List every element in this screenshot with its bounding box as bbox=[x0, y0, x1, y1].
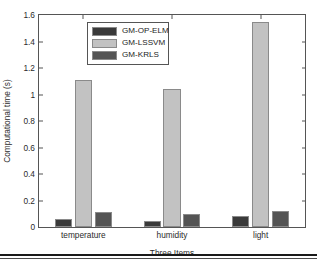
y-tick-mark bbox=[39, 200, 43, 201]
legend-label: GM-OP-ELM bbox=[122, 27, 169, 35]
bar bbox=[144, 221, 161, 227]
x-axis-title: Three Items bbox=[150, 248, 194, 258]
plot-area: 00.20.40.60.811.21.41.6 temperaturehumid… bbox=[38, 14, 306, 228]
page-rule-thin bbox=[0, 258, 317, 259]
y-tick-mark bbox=[302, 94, 306, 95]
y-tick-mark bbox=[302, 174, 306, 175]
y-tick-mark bbox=[39, 121, 43, 122]
legend-swatch bbox=[92, 39, 117, 48]
y-tick-mark bbox=[39, 174, 43, 175]
bar bbox=[55, 219, 72, 227]
y-tick-label: 0 bbox=[30, 223, 35, 231]
bar bbox=[183, 214, 200, 227]
page-rule-thick bbox=[0, 254, 317, 256]
legend: GM-OP-ELMGM-LSSVMGM-KRLS bbox=[87, 22, 169, 65]
bar bbox=[272, 211, 289, 227]
y-tick-label: 0.8 bbox=[23, 117, 35, 125]
legend-label: GM-KRLS bbox=[122, 51, 159, 59]
x-tick-label: humidity bbox=[157, 231, 188, 239]
bar bbox=[95, 212, 112, 227]
y-tick-mark bbox=[39, 147, 43, 148]
y-tick-label: 0.4 bbox=[23, 170, 35, 178]
y-tick-mark bbox=[302, 200, 306, 201]
y-tick-mark bbox=[302, 121, 306, 122]
y-tick-mark bbox=[302, 68, 306, 69]
x-tick-mark bbox=[260, 15, 261, 19]
y-tick-label: 1.6 bbox=[23, 11, 35, 19]
y-axis-title: Computational time (s) bbox=[2, 79, 12, 162]
x-tick-mark bbox=[172, 15, 173, 19]
y-tick-label: 1.4 bbox=[23, 37, 35, 45]
y-tick-label: 0.6 bbox=[23, 143, 35, 151]
legend-item: GM-LSSVM bbox=[92, 38, 164, 49]
y-tick-label: 0.2 bbox=[23, 196, 35, 204]
x-tick-label: temperature bbox=[61, 231, 106, 239]
y-tick-label: 1.2 bbox=[23, 64, 35, 72]
y-tick-mark bbox=[39, 68, 43, 69]
legend-label: GM-LSSVM bbox=[122, 39, 165, 47]
legend-item: GM-OP-ELM bbox=[92, 26, 164, 37]
x-tick-label: light bbox=[253, 231, 268, 239]
x-tick-mark bbox=[83, 15, 84, 19]
bar bbox=[252, 22, 269, 227]
y-tick-mark bbox=[302, 41, 306, 42]
bar bbox=[75, 80, 92, 227]
bar bbox=[163, 89, 180, 227]
legend-swatch bbox=[92, 27, 117, 36]
legend-swatch bbox=[92, 51, 117, 60]
legend-item: GM-KRLS bbox=[92, 50, 164, 61]
bar bbox=[232, 216, 249, 227]
figure-canvas: Computational time (s) Three Items 00.20… bbox=[0, 0, 317, 246]
y-tick-mark bbox=[39, 41, 43, 42]
y-tick-mark bbox=[39, 94, 43, 95]
y-tick-label: 1 bbox=[30, 90, 35, 98]
y-tick-mark bbox=[302, 147, 306, 148]
